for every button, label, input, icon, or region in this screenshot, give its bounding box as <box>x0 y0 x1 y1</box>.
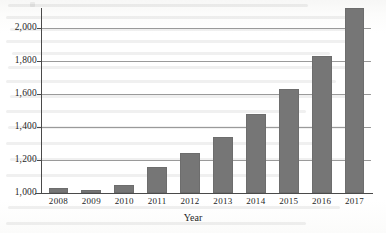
ytick-label-1400: 1,400 <box>0 122 37 132</box>
ytick-label-1600: 1,600 <box>0 89 37 99</box>
bar-2012 <box>180 153 200 193</box>
bar-2011 <box>147 167 167 193</box>
bars-container <box>42 8 371 193</box>
bar-chart: 2,000 1,800 1,600 1,400 1,200 1,000 2008… <box>0 0 386 233</box>
scan-smudge <box>30 2 35 7</box>
bar-2015 <box>279 89 299 193</box>
ytick-label-2000: 2,000 <box>0 23 37 33</box>
bar-2009 <box>81 190 101 193</box>
ytick-label-1000: 1,000 <box>0 188 37 198</box>
xtick-label-2010: 2010 <box>108 197 141 206</box>
bar-2013 <box>213 137 233 193</box>
xtick-label-2015: 2015 <box>272 197 305 206</box>
xtick-label-2012: 2012 <box>174 197 207 206</box>
xtick-label-2009: 2009 <box>75 197 108 206</box>
xtick-label-2014: 2014 <box>239 197 272 206</box>
bar-2016 <box>312 56 332 193</box>
bar-2017 <box>345 8 365 193</box>
xtick-label-2017: 2017 <box>338 197 371 206</box>
xtick-label-2013: 2013 <box>207 197 240 206</box>
bar-2014 <box>246 114 266 193</box>
bar-2010 <box>114 185 134 193</box>
xtick-label-2008: 2008 <box>42 197 75 206</box>
ytick-label-1800: 1,800 <box>0 56 37 66</box>
xtick-label-2011: 2011 <box>141 197 174 206</box>
x-axis-line <box>35 193 373 194</box>
ytick-label-1200: 1,200 <box>0 155 37 165</box>
bar-2008 <box>49 188 69 193</box>
xtick-label-2016: 2016 <box>305 197 338 206</box>
x-axis-title: Year <box>0 212 386 223</box>
